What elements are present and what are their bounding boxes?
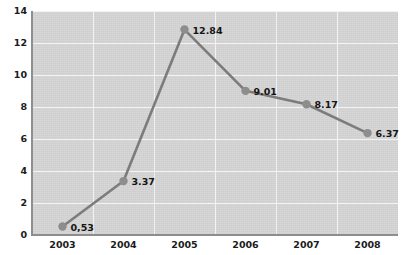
line-chart: 0,533.3712.849.018.176.37 02468101214 20…: [0, 0, 408, 255]
plot-area: 0,533.3712.849.018.176.37: [32, 11, 398, 235]
data-point-label: 6.37: [376, 129, 399, 139]
data-point-marker: [58, 222, 66, 230]
y-axis-tick-label: 12: [14, 38, 27, 48]
y-axis-line: [31, 11, 33, 235]
y-axis-tick-label: 10: [14, 70, 27, 80]
data-point-marker: [363, 129, 371, 137]
y-axis-tick-label: 0: [20, 230, 27, 240]
y-axis-tick-label: 2: [20, 198, 27, 208]
x-axis-tick-label: 2006: [232, 240, 258, 250]
data-point-label: 8.17: [315, 100, 338, 110]
y-axis-tick-label: 8: [20, 102, 27, 112]
data-point-marker: [180, 25, 188, 33]
y-axis-tick-label: 6: [20, 134, 27, 144]
data-point-marker: [241, 87, 249, 95]
data-point-label: 3.37: [132, 177, 155, 187]
x-axis-tick-label: 2008: [354, 240, 380, 250]
x-axis-tick-label: 2004: [110, 240, 136, 250]
data-point-label: 9.01: [254, 87, 277, 97]
x-axis-tick-label: 2003: [49, 240, 75, 250]
x-axis-tick-label: 2007: [293, 240, 319, 250]
data-point-marker: [302, 100, 310, 108]
y-axis-tick-label: 14: [14, 6, 27, 16]
y-axis-tick-label: 4: [20, 166, 27, 176]
data-point-label: 0,53: [71, 223, 94, 233]
x-axis-line: [31, 234, 398, 236]
series-polyline: [63, 30, 368, 227]
series-line: [32, 11, 398, 235]
data-point-label: 12.84: [193, 26, 223, 36]
x-axis-tick-label: 2005: [171, 240, 197, 250]
series-markers: [58, 25, 371, 230]
data-point-marker: [119, 177, 127, 185]
